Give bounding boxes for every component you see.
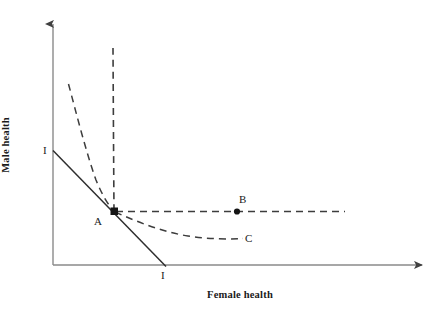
budget-y-intercept-label: I [43, 144, 47, 156]
indifference-curve-upper-left [69, 84, 115, 211]
point-a-label: A [94, 215, 102, 227]
indifference-curve-vertical-branch [113, 48, 114, 211]
point-b-label: B [239, 193, 246, 205]
x-axis-title: Female health [170, 289, 310, 300]
point-b-marker [234, 208, 240, 214]
chart-figure: Male health Female health A B C I I [0, 0, 446, 310]
budget-x-intercept-label: I [161, 269, 165, 281]
point-a-marker [111, 208, 119, 216]
curve-c-label: C [245, 232, 252, 244]
y-axis-title: Male health [0, 100, 11, 190]
plot-canvas [0, 0, 446, 310]
budget-constraint-line [53, 151, 166, 267]
